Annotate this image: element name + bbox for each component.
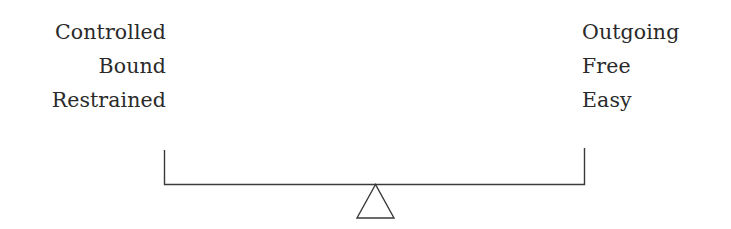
beam-line (165, 148, 585, 185)
balance-scale-diagram (0, 0, 731, 229)
balance-beam (165, 148, 585, 185)
fulcrum-triangle-icon (357, 185, 394, 219)
